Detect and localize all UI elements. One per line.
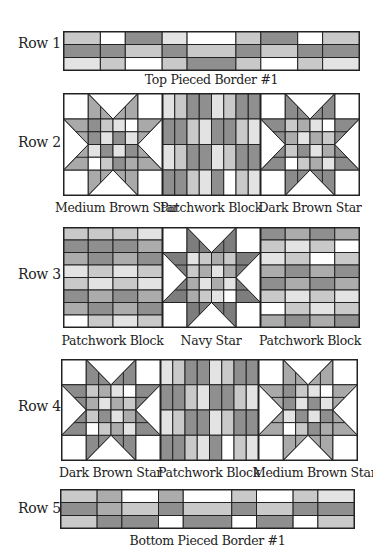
patchwork-block-vertical	[162, 93, 261, 196]
row-2-label: Row 2	[18, 134, 61, 150]
patchwork-block-horizontal	[260, 227, 360, 328]
dark-brown-star-block	[260, 93, 360, 196]
dark-brown-star-caption: Dark Brown Star	[255, 200, 365, 215]
navy-star-block	[162, 227, 261, 328]
row-5-label: Row 5	[18, 500, 61, 516]
medium-brown-star-block	[63, 93, 163, 196]
medium-brown-star-caption: Medium Brown Star	[55, 200, 170, 215]
patchwork-block-caption: Patchwork Block	[155, 465, 263, 480]
top-pieced-border	[63, 31, 360, 71]
dark-brown-star-caption: Dark Brown Star	[53, 465, 168, 480]
patchwork-block-horizontal	[63, 227, 163, 328]
patchwork-block-caption: Patchwork Block	[255, 333, 365, 348]
bottom-border-caption: Bottom Pieced Border #1	[60, 533, 355, 548]
dark-brown-star-block	[61, 359, 161, 461]
navy-star-caption: Navy Star	[157, 333, 265, 348]
top-border-caption: Top Pieced Border #1	[63, 72, 360, 87]
patchwork-block-caption: Patchwork Block	[55, 333, 170, 348]
row-4-label: Row 4	[18, 398, 61, 414]
row-1-label: Row 1	[18, 35, 61, 51]
patchwork-block-caption: Patchwork Block	[157, 200, 265, 215]
medium-brown-star-block	[258, 359, 358, 461]
row-3-label: Row 3	[18, 266, 61, 282]
bottom-pieced-border	[60, 489, 355, 529]
patchwork-block-vertical	[160, 359, 259, 461]
medium-brown-star-caption: Medium Brown Star	[253, 465, 368, 480]
